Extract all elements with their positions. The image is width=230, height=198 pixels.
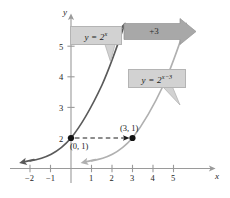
callout-tail-curve2	[163, 87, 180, 105]
point-label-3-1: (3, 1)	[120, 124, 138, 133]
point-label-0-1: (0, 1)	[70, 142, 88, 151]
x-tick-label-4: 4	[151, 174, 155, 183]
callout-curve1-equation: y = 2x	[84, 30, 107, 42]
x-axis-label: x	[215, 172, 219, 181]
shift-banner-arrow	[124, 19, 196, 45]
x-axis	[10, 165, 212, 172]
x-tick-label--1: −1	[46, 174, 55, 183]
x-tick-label-3: 3	[130, 174, 134, 183]
x-tick-label-2: 2	[110, 174, 114, 183]
x-tick-label-5: 5	[171, 174, 175, 183]
callout-curve2: y = 2x−3	[128, 69, 186, 88]
y-tick-label-2: 2	[59, 135, 63, 144]
y-tick-label-4: 4	[59, 73, 63, 82]
y-axis-label: y	[63, 8, 67, 17]
y-tick-label-5: 5	[59, 43, 63, 52]
x-tick-label--2: −2	[25, 174, 34, 183]
x-tick-label-1: 1	[89, 174, 93, 183]
callout-curve1: y = 2x	[70, 26, 122, 45]
callout-curve2-equation: y = 2x−3	[142, 73, 173, 85]
exponential-shift-figure: +3 y = 2x y = 2x−3 −2 −1 1 2 3 4 5 2 3 4…	[0, 0, 230, 198]
callout-tail-curve1	[105, 45, 115, 62]
y-tick-label-3: 3	[59, 104, 63, 113]
point-3-1	[129, 135, 135, 141]
